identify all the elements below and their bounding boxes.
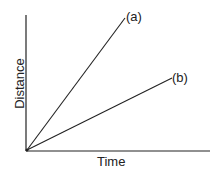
diagram-canvas xyxy=(0,0,220,174)
x-axis-label: Time xyxy=(97,155,125,168)
distance-time-diagram: (a) (b) Time Distance xyxy=(0,0,220,174)
line-b xyxy=(27,78,172,150)
line-a xyxy=(27,18,125,150)
y-axis-label: Distance xyxy=(13,56,26,112)
line-a-label: (a) xyxy=(126,10,142,23)
line-b-label: (b) xyxy=(172,71,188,84)
origin-dot xyxy=(26,149,29,152)
